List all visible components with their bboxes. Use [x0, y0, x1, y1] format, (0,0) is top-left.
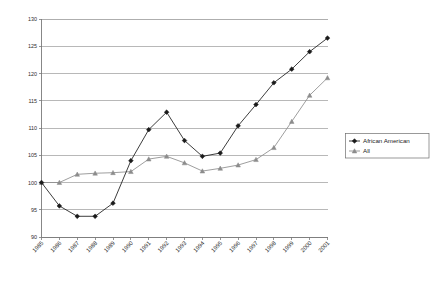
- x-tick-label: 1987: [67, 240, 80, 253]
- x-tick-label: 1995: [210, 240, 223, 253]
- x-tick-label: 1986: [49, 240, 62, 253]
- x-tick-label: 1990: [121, 240, 134, 253]
- x-tick-label: 2000: [299, 240, 312, 253]
- y-tick-label: 110: [28, 125, 37, 131]
- x-tick-label: 1996: [228, 240, 241, 253]
- x-tick-label: 1997: [246, 240, 259, 253]
- y-tick-label: 90: [31, 234, 37, 240]
- x-tick-label: 1992: [156, 240, 169, 253]
- chart-canvas: 9095100105110115120125130198519861987198…: [0, 0, 431, 281]
- x-tick-label: 1988: [85, 240, 98, 253]
- y-tick-label: 105: [28, 152, 37, 158]
- y-tick-label: 130: [28, 16, 37, 22]
- x-tick-label: 1989: [103, 240, 116, 253]
- y-tick-label: 125: [28, 43, 37, 49]
- y-tick-label: 100: [28, 180, 37, 186]
- legend-label: African American: [363, 137, 410, 144]
- y-tick-label: 115: [28, 98, 37, 104]
- x-tick-label: 1999: [281, 240, 294, 253]
- y-tick-label: 120: [28, 71, 37, 77]
- x-tick-label: 1991: [138, 240, 151, 253]
- line-chart: 9095100105110115120125130198519861987198…: [0, 0, 431, 281]
- y-tick-label: 95: [31, 207, 37, 213]
- x-tick-label: 1993: [174, 240, 187, 253]
- x-tick-label: 1985: [31, 240, 44, 253]
- x-tick-label: 1994: [192, 239, 206, 253]
- x-tick-label: 2001: [317, 240, 330, 253]
- legend-label: All: [363, 147, 370, 154]
- x-tick-label: 1998: [264, 240, 277, 253]
